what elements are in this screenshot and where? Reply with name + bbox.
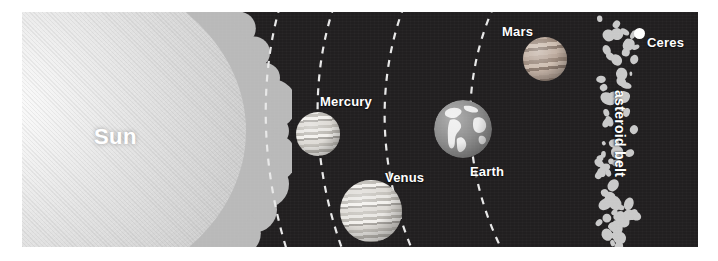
label-mars: Mars <box>502 24 533 39</box>
planet-earth <box>434 100 492 158</box>
solar-system-diagram: Sun Me <box>0 0 718 261</box>
orbit-mercury <box>266 12 288 247</box>
label-mercury: Mercury <box>320 94 372 109</box>
planet-venus <box>340 180 402 242</box>
planet-mars <box>523 37 567 81</box>
space-background: Sun Me <box>22 12 698 247</box>
label-earth: Earth <box>470 164 504 179</box>
earth-continents <box>434 100 492 158</box>
label-ceres: Ceres <box>647 35 684 50</box>
label-asteroid-belt: asteroid belt <box>612 90 628 177</box>
planet-mercury <box>296 112 340 156</box>
label-venus: Venus <box>385 170 424 185</box>
ceres-dot-icon <box>634 28 645 39</box>
